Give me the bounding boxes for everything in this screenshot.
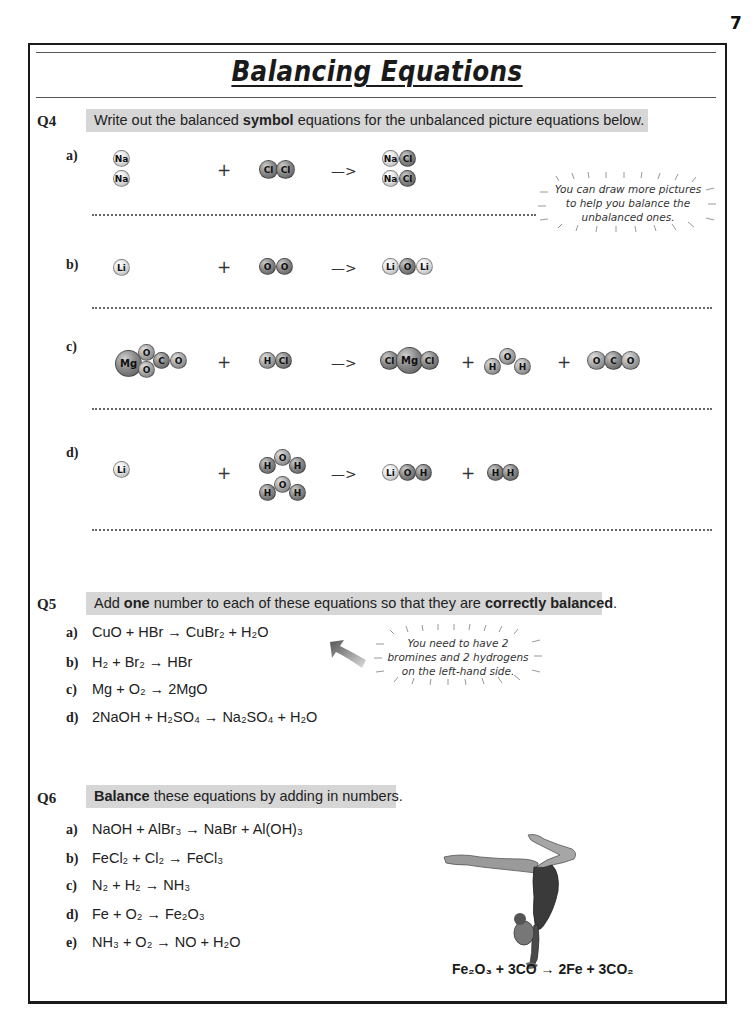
- atom-h: H: [514, 358, 531, 375]
- q5-instruction: Add one number to each of these equation…: [86, 592, 602, 615]
- q5d-label: d): [66, 710, 92, 726]
- q5b-label: b): [66, 655, 92, 671]
- q6e-equation-row: e)NH₃ + O₂ → NO + H₂O: [66, 934, 241, 951]
- reaction-arrow: —>: [331, 164, 357, 178]
- q6a-label: a): [66, 822, 92, 838]
- gymnast-handstand-icon: [440, 833, 605, 973]
- q5-hint-note: You need to have 2 bromines and 2 hydrog…: [382, 636, 534, 678]
- reaction-arrow: —>: [331, 261, 357, 275]
- plus-sign: +: [217, 465, 231, 482]
- q5-instruction-text-end: .: [613, 595, 617, 611]
- atom-h: H: [289, 484, 306, 501]
- q4b-label: b): [66, 257, 78, 273]
- q5b-equation[interactable]: H₂ + Br₂ → HBr: [92, 654, 192, 670]
- plus-sign: +: [217, 354, 231, 371]
- atom-cl: Cl: [399, 170, 416, 187]
- answer-line-q4d[interactable]: [92, 529, 712, 531]
- q6e-equation[interactable]: NH₃ + O₂ → NO + H₂O: [92, 934, 241, 950]
- q6-instruction-text: these equations by adding in numbers.: [150, 788, 403, 804]
- q6b-equation[interactable]: FeCl₂ + Cl₂ → FeCl₃: [92, 850, 223, 866]
- q4-instruction-text-end: equations for the unbalanced picture equ…: [294, 112, 645, 128]
- q5-instruction-text: Add: [94, 595, 124, 611]
- q5c-equation-row: c)Mg + O₂ → 2MgO: [66, 681, 208, 698]
- atom-o: O: [499, 348, 516, 365]
- atom-h: H: [484, 358, 501, 375]
- q5a-label: a): [66, 625, 92, 641]
- q5a-equation[interactable]: CuO + HBr → CuBr₂ + H₂O: [92, 624, 268, 640]
- page-title: Balancing Equations: [45, 55, 709, 88]
- q5c-label: c): [66, 682, 92, 698]
- q5d-equation[interactable]: 2NaOH + H₂SO₄ → Na₂SO₄ + H₂O: [92, 709, 317, 725]
- note-line: to help you balance the: [548, 196, 708, 210]
- atom-na: Na: [113, 150, 130, 167]
- page-number: 7: [730, 13, 742, 33]
- q5-label: Q5: [37, 596, 56, 613]
- atom-cl: Cl: [420, 351, 439, 370]
- atom-mg: Mg: [396, 347, 423, 374]
- atom-h: H: [289, 457, 306, 474]
- plus-sign: +: [217, 259, 231, 276]
- q6-instruction-bold: Balance: [94, 788, 150, 804]
- atom-o: O: [276, 258, 293, 275]
- note-line: You can draw more pictures: [548, 182, 708, 196]
- q6-instruction: Balance these equations by adding in num…: [86, 785, 396, 808]
- reaction-arrow: —>: [331, 356, 357, 370]
- answer-line-q4c[interactable]: [92, 408, 712, 410]
- q5-instruction-text: number to each of these equations so tha…: [150, 595, 485, 611]
- atom-na: Na: [382, 150, 399, 167]
- plus-sign: +: [461, 465, 475, 482]
- q5-instruction-bold: one: [124, 595, 150, 611]
- q5a-equation-row: a)CuO + HBr → CuBr₂ + H₂O: [66, 624, 268, 641]
- q6c-equation-row: c)N₂ + H₂ → NH₃: [66, 877, 190, 894]
- atom-o: O: [170, 352, 187, 369]
- atom-cl: Cl: [275, 352, 292, 369]
- note-line: on the left-hand side.: [382, 664, 534, 678]
- plus-sign: +: [557, 354, 571, 371]
- q5-instruction-bold: correctly balanced: [485, 595, 613, 611]
- atom-o: O: [399, 258, 416, 275]
- atom-li: Li: [382, 258, 399, 275]
- atom-h: H: [259, 352, 276, 369]
- q6c-equation[interactable]: N₂ + H₂ → NH₃: [92, 877, 190, 893]
- q4-instruction-bold: symbol: [243, 112, 294, 128]
- q6d-label: d): [66, 907, 92, 923]
- q6b-equation-row: b)FeCl₂ + Cl₂ → FeCl₃: [66, 850, 223, 867]
- atom-li: Li: [382, 464, 399, 481]
- q6-label: Q6: [37, 790, 56, 807]
- gymnast-caption: Fe₂O₃ + 3CO → 2Fe + 3CO₂: [452, 961, 634, 977]
- answer-line-q4a[interactable]: [92, 214, 536, 216]
- q4-hint-note: You can draw more pictures to help you b…: [548, 182, 708, 224]
- atom-c: C: [153, 352, 170, 369]
- note-line: bromines and 2 hydrogens: [382, 650, 534, 664]
- q6d-equation-row: d)Fe + O₂ → Fe₂O₃: [66, 906, 205, 923]
- q6d-equation[interactable]: Fe + O₂ → Fe₂O₃: [92, 906, 205, 922]
- atom-li: Li: [113, 259, 130, 276]
- q4d-label: d): [66, 445, 78, 461]
- atom-cl: Cl: [399, 150, 416, 167]
- q4-instruction-text: Write out the balanced: [94, 112, 243, 128]
- q5d-equation-row: d)2NaOH + H₂SO₄ → Na₂SO₄ + H₂O: [66, 709, 317, 726]
- q6a-equation[interactable]: NaOH + AlBr₃ → NaBr + Al(OH)₃: [92, 821, 303, 837]
- q4a-label: a): [66, 148, 78, 164]
- note-line: unbalanced ones.: [548, 210, 708, 224]
- q6e-label: e): [66, 935, 92, 951]
- q5c-equation[interactable]: Mg + O₂ → 2MgO: [92, 681, 208, 697]
- atom-o: O: [138, 361, 155, 378]
- q4-label: Q4: [37, 113, 56, 130]
- atom-o: O: [621, 351, 640, 370]
- q4-instruction: Write out the balanced symbol equations …: [86, 109, 648, 132]
- atom-h: H: [415, 464, 432, 481]
- reaction-arrow: —>: [331, 467, 357, 481]
- atom-li: Li: [416, 258, 433, 275]
- note-line: You need to have 2: [382, 636, 534, 650]
- q6c-label: c): [66, 878, 92, 894]
- title-rule-bottom: [36, 97, 716, 98]
- atom-li: Li: [113, 461, 130, 478]
- atom-o: O: [259, 258, 276, 275]
- atom-o: O: [399, 464, 416, 481]
- title-rule-top: [36, 52, 716, 53]
- q6a-equation-row: a)NaOH + AlBr₃ → NaBr + Al(OH)₃: [66, 821, 303, 838]
- answer-line-q4b[interactable]: [92, 307, 712, 309]
- atom-cl: Cl: [276, 160, 295, 179]
- curved-arrow-icon: [326, 638, 368, 670]
